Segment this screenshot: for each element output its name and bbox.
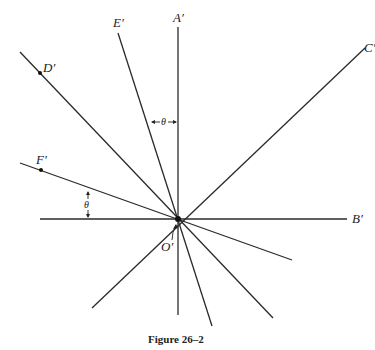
label-origin: O′ (161, 239, 173, 254)
origin-point (175, 216, 181, 222)
line-e (118, 33, 212, 326)
theta-top-label: θ (161, 116, 166, 127)
origin-pointer-arrowhead (173, 224, 178, 229)
figure-diagram: A′ B′ C′ D′ E′ F′ O′ θ θ Figure 26–2 (0, 0, 375, 350)
figure-caption: Figure 26–2 (148, 333, 204, 345)
label-d: D′ (42, 60, 55, 75)
theta-left-arrowhead-top (86, 191, 90, 195)
theta-top-arrowhead-right (173, 120, 177, 124)
line-d (20, 52, 273, 318)
label-e: E′ (112, 15, 124, 30)
label-f: F′ (35, 152, 47, 167)
label-c: C′ (364, 40, 375, 55)
point-f (39, 168, 43, 172)
line-f (20, 163, 292, 260)
theta-left-label: θ (84, 199, 89, 210)
label-a: A′ (172, 10, 184, 25)
theta-top-arrowhead-left (151, 120, 155, 124)
label-b: B′ (352, 211, 363, 226)
point-d (38, 71, 42, 75)
theta-left-arrowhead-bottom (86, 214, 90, 218)
line-c (92, 48, 365, 308)
